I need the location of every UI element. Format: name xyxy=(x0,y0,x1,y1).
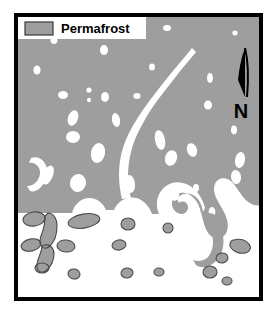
map-legend: Permafrost xyxy=(18,17,146,39)
map-canvas: N Permafrost xyxy=(0,0,276,316)
legend-label-permafrost: Permafrost xyxy=(61,21,130,36)
north-arrow-label: N xyxy=(234,100,248,122)
permafrost-map-figure: N Permafrost xyxy=(0,0,276,316)
legend-swatch-permafrost xyxy=(25,22,53,35)
